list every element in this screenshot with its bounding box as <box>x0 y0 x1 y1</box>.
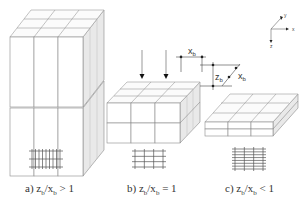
x-b-label: xb <box>188 46 197 57</box>
axis-x-label: x <box>292 26 295 32</box>
panel-c-blocks <box>205 94 298 136</box>
caption-b: b) zb/xb = 1 <box>127 182 177 197</box>
caption-c: c) zb/xb < 1 <box>225 182 274 197</box>
x-b-depth-label: xb <box>238 71 247 82</box>
caption-a: a) zb/xb > 1 <box>25 182 74 197</box>
panel-b-cross-section <box>132 149 166 169</box>
panel-c-cross-section <box>232 147 266 171</box>
block-partition-diagram: xb zb xb y <box>0 0 305 201</box>
axis-z-label: z <box>270 43 273 49</box>
panel-b-blocks <box>107 50 200 143</box>
z-b-label: zb <box>215 72 224 83</box>
axis-y-label: y <box>284 12 287 18</box>
axis-triad: y x z <box>270 12 296 49</box>
